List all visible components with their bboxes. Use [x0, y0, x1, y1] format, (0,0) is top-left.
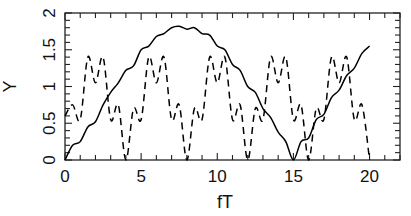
x-tick-label: 15 [284, 167, 303, 186]
y-tick-label: 1.5 [40, 38, 59, 62]
y-tick-label: 0 [40, 155, 59, 164]
x-tick-label: 5 [136, 167, 145, 186]
y-tick-label: 1 [40, 82, 59, 91]
x-tick-label: 0 [60, 167, 69, 186]
axis-labels: fT Y [0, 80, 233, 212]
x-tick-label: 10 [208, 167, 227, 186]
series-dashed-line [65, 56, 370, 160]
plot-axes: 0510152000.511.52 [40, 8, 400, 186]
x-axis-title: fT [217, 192, 233, 212]
series-solid-line [65, 26, 370, 160]
y-tick-label: 2 [40, 8, 59, 17]
line-chart: 0510152000.511.52 fT Y [0, 0, 411, 216]
y-axis-title: Y [0, 80, 20, 92]
x-tick-label: 20 [360, 167, 379, 186]
y-tick-label: 0.5 [40, 111, 59, 135]
plot-series [65, 26, 370, 160]
